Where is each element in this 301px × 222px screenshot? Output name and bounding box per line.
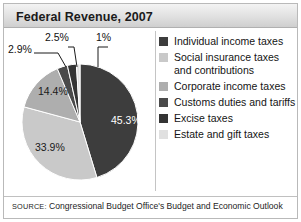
legend-item: Customs duties and tariffs [159,96,299,109]
source-label: SOURCE: [12,202,47,211]
legend-item: Individual income taxes [159,35,299,48]
legend-divider [155,31,156,191]
slice-label-social: 33.9% [35,141,65,153]
legend-item-label: Individual income taxes [174,35,283,48]
slice-label-customs: 2.9% [8,43,32,55]
leader-line-1 [98,47,108,67]
legend-item-label: Corporate income taxes [174,80,285,93]
legend: Individual income taxesSocial insurance … [159,35,299,144]
federal-revenue-chart-card: Federal Revenue, 2007 45.3% 33.9% 14.4% … [0,0,301,222]
source-note: SOURCE: Congressional Budget Office's Bu… [12,201,283,211]
legend-item: Estate and gift taxes [159,128,299,141]
legend-item-label: Estate and gift taxes [174,128,269,141]
legend-swatch-icon [159,114,168,123]
slice-label-corporate: 14.4% [38,85,68,97]
pie-chart: 45.3% 33.9% 14.4% 2.9% 2.5% 1% [4,29,154,192]
chart-area: 45.3% 33.9% 14.4% 2.9% 2.5% 1% Individua… [4,29,297,192]
page-title: Federal Revenue, 2007 [16,10,153,24]
legend-swatch-icon [159,130,168,139]
slice-label-excise: 2.5% [45,31,69,43]
slice-label-estate: 1% [96,31,111,43]
title-bar: Federal Revenue, 2007 [4,4,297,28]
legend-swatch-icon [159,82,168,91]
leader-lines [34,47,108,67]
legend-item: Social insurance taxes and contributions [159,51,299,76]
legend-item-label: Excise taxes [174,112,233,125]
legend-item-label: Social insurance taxes and contributions [174,51,299,76]
footer-separator [4,196,297,197]
legend-item: Excise taxes [159,112,299,125]
leader-line-2-9 [34,53,66,67]
slice-label-individual: 45.3% [111,114,141,126]
legend-item-label: Customs duties and tariffs [174,96,295,109]
source-text: Congressional Budget Office's Budget and… [47,201,283,211]
legend-swatch-icon [159,37,168,46]
legend-swatch-icon [159,98,168,107]
legend-swatch-icon [159,53,168,62]
legend-item: Corporate income taxes [159,80,299,93]
